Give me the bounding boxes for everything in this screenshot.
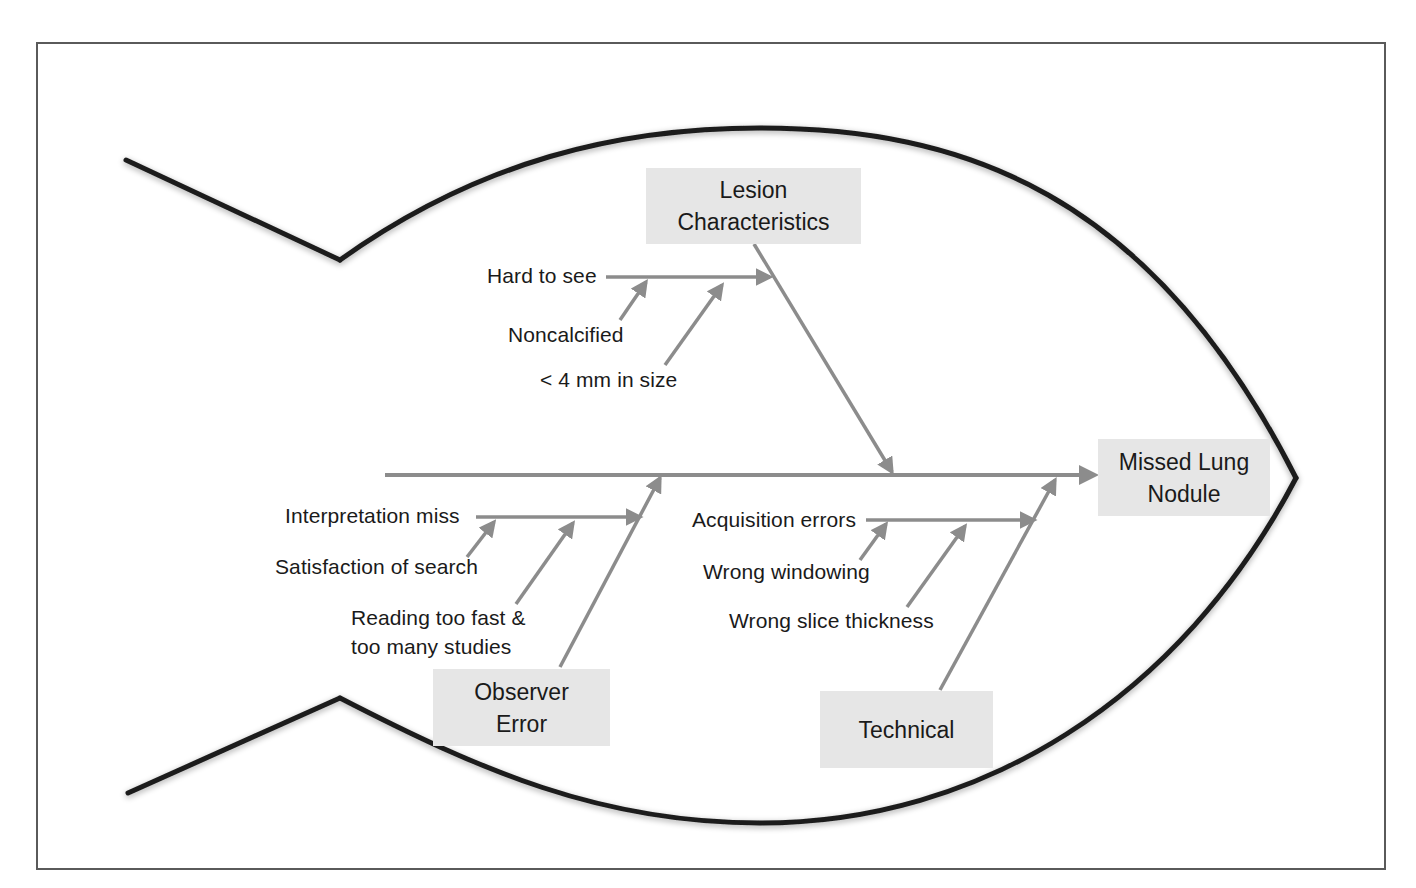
subcause-label-windowing: Wrong windowing: [703, 557, 870, 587]
subcause-arrow-reading: [516, 523, 573, 604]
cause-label-hard-to-see: Hard to see: [487, 261, 597, 291]
cause-label-interpretation: Interpretation miss: [285, 501, 460, 531]
category-title: Lesion: [720, 174, 788, 206]
category-box-lesion: Lesion Characteristics: [646, 168, 861, 244]
subcause-label-reading-1: Reading too fast &: [351, 603, 526, 633]
cause-label-acquisition: Acquisition errors: [692, 505, 856, 535]
effect-title: Missed Lung: [1119, 446, 1249, 478]
category-box-observer: Observer Error: [433, 669, 610, 746]
subcause-arrow-slice: [907, 526, 965, 607]
subcause-label-noncalcified: Noncalcified: [508, 320, 624, 350]
subcause-label-reading-2: too many studies: [351, 632, 511, 662]
subcause-label-slice: Wrong slice thickness: [729, 606, 934, 636]
category-title: Observer: [474, 676, 569, 708]
fish-tail-top: [126, 160, 340, 260]
subcause-arrow-noncalcified: [620, 282, 646, 320]
category-title: Error: [496, 708, 547, 740]
bone-technical: [940, 480, 1055, 690]
subcause-label-size: < 4 mm in size: [540, 365, 677, 395]
effect-box: Missed Lung Nodule: [1098, 439, 1270, 516]
effect-title: Nodule: [1148, 478, 1221, 510]
category-box-technical: Technical: [820, 691, 993, 768]
bone-observer: [560, 478, 660, 667]
subcause-label-satisfaction: Satisfaction of search: [275, 552, 478, 582]
category-title: Technical: [859, 714, 955, 746]
category-title: Characteristics: [677, 206, 829, 238]
subcause-arrow-windowing: [860, 524, 886, 560]
bone-lesion: [754, 244, 892, 472]
fish-tail-bottom: [128, 698, 340, 793]
subcause-arrow-size: [665, 285, 722, 365]
